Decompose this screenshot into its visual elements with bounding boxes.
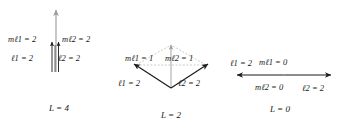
label-ell-1: ℓ1 = 2 xyxy=(118,79,140,88)
label-ell-1: ℓ1 = 2 xyxy=(230,59,252,68)
label-m-ell-2: mℓ2 = 2 xyxy=(62,35,90,44)
resultant-point-L0 xyxy=(283,74,285,76)
panel-L0-vectors xyxy=(228,0,340,137)
angular-momentum-vector-diagram: mℓ1 = 2 mℓ2 = 2 ℓ1 = 2 ℓ2 = 2 L = 4 mℓ1 … xyxy=(0,0,340,137)
panel-L4-vectors xyxy=(0,0,118,137)
label-ell-2: ℓ2 = 2 xyxy=(178,79,200,88)
label-m-ell-1: mℓ1 = 1 xyxy=(125,54,153,63)
label-ell-2: ℓ2 = 2 xyxy=(302,84,324,93)
panel-L2: mℓ1 = 1 mℓ2 = 1 ℓ1 = 2 ℓ2 = 2 L = 2 xyxy=(112,0,230,137)
label-total-L: L = 4 xyxy=(29,104,89,113)
label-ell-2: ℓ2 = 2 xyxy=(58,54,80,63)
panel-L0: ℓ1 = 2 mℓ1 = 0 mℓ2 = 0 ℓ2 = 2 L = 0 xyxy=(228,0,340,137)
label-m-ell-2: mℓ2 = 1 xyxy=(165,54,193,63)
label-m-ell-2: mℓ2 = 0 xyxy=(255,83,283,92)
label-total-L: L = 2 xyxy=(141,111,201,120)
label-m-ell-1: mℓ1 = 2 xyxy=(8,35,36,44)
label-total-L: L = 0 xyxy=(250,105,310,114)
label-ell-1: ℓ1 = 2 xyxy=(11,54,33,63)
label-m-ell-1: mℓ1 = 0 xyxy=(259,58,287,67)
panel-L4: mℓ1 = 2 mℓ2 = 2 ℓ1 = 2 ℓ2 = 2 L = 4 xyxy=(0,0,118,137)
